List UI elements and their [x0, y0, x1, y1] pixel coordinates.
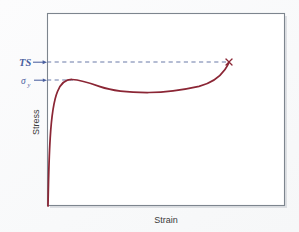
- stress-strain-figure: TS σ y Stress Strain: [0, 0, 299, 232]
- x-axis-label: Strain: [154, 215, 178, 225]
- yield-strength-arrow-head: [43, 78, 47, 82]
- y-axis-label: Stress: [31, 109, 41, 135]
- yield-strength-annotation: σ y: [21, 76, 47, 88]
- tensile-strength-annotation: TS: [19, 57, 47, 68]
- yield-strength-label-sigma: σ: [21, 76, 26, 86]
- stress-strain-plot: TS σ y Stress Strain: [0, 0, 299, 232]
- tensile-strength-label: TS: [19, 57, 31, 68]
- yield-strength-label-subscript: y: [27, 81, 31, 88]
- plot-area-background: [47, 13, 285, 206]
- tensile-strength-arrow-head: [43, 60, 47, 64]
